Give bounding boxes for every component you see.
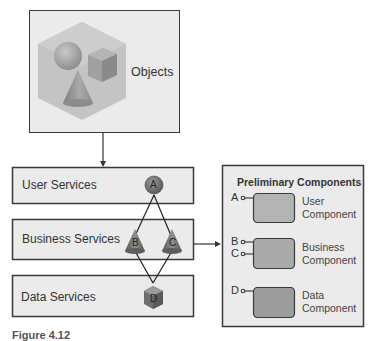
node-c-label: C <box>169 237 176 248</box>
user-component-label: User Component <box>302 195 356 221</box>
node-d-label: D <box>150 293 157 304</box>
objects-hexagon-icon <box>38 22 126 120</box>
objects-label: Objects <box>131 65 173 79</box>
port-a-label: A <box>231 191 238 203</box>
business-services-label: Business Services <box>22 232 120 246</box>
panel-title: Preliminary Components <box>237 176 361 188</box>
data-services-label: Data Services <box>21 290 96 304</box>
user-component-line1: User <box>302 195 356 208</box>
business-component-line2: Component <box>302 254 356 267</box>
port-c-label: C <box>231 247 239 259</box>
figure-caption: Figure 4.12 <box>12 329 70 341</box>
user-services-label: User Services <box>22 178 97 192</box>
data-component-line2: Component <box>302 302 356 315</box>
node-a-label: A <box>150 179 157 190</box>
business-component-line1: Business <box>302 241 356 254</box>
port-d-label: D <box>231 284 239 296</box>
data-component-line1: Data <box>302 289 356 302</box>
business-component-label: Business Component <box>302 241 356 267</box>
port-b-label: B <box>231 235 238 247</box>
node-b-label: B <box>132 237 139 248</box>
data-component-label: Data Component <box>302 289 356 315</box>
user-component-line2: Component <box>302 208 356 221</box>
